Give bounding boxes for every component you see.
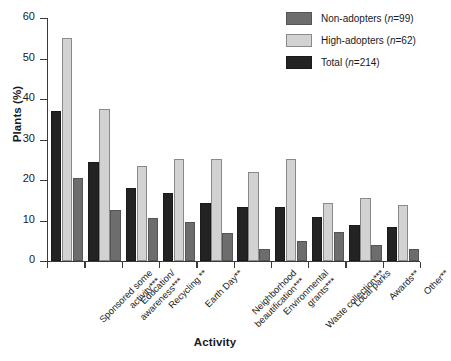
x-axis-tick xyxy=(234,262,235,268)
bar-non xyxy=(185,222,195,260)
y-axis-tick xyxy=(40,180,47,181)
bar-total xyxy=(88,162,98,260)
bar-high xyxy=(99,109,109,261)
y-axis-tick-label: 60 xyxy=(13,10,35,22)
legend-item: Non-adopters (n=99) xyxy=(286,9,422,28)
bar-high xyxy=(286,159,296,260)
x-axis-title: Activity xyxy=(140,336,290,348)
bar-non xyxy=(148,218,158,261)
bar-group xyxy=(126,18,158,261)
y-axis-tick xyxy=(40,140,47,141)
x-axis-tick xyxy=(159,262,160,268)
bar-total xyxy=(275,207,285,261)
y-axis-tick-label: 0 xyxy=(13,253,35,265)
x-axis-tick xyxy=(122,262,123,268)
y-axis-tick xyxy=(40,221,47,222)
bar-non xyxy=(73,178,83,261)
bar-high xyxy=(323,203,333,261)
bar-non xyxy=(409,249,419,260)
x-axis-category-label: Awards** xyxy=(387,268,421,302)
y-axis-tick xyxy=(40,99,47,100)
bar-high xyxy=(398,205,408,261)
legend-swatch-non xyxy=(286,12,312,25)
legend-label: Non-adopters (n=99) xyxy=(321,13,414,24)
x-axis-tick xyxy=(271,262,272,268)
bar-high xyxy=(211,159,221,260)
bar-total xyxy=(349,225,359,260)
legend-item: High-adopters (n=62) xyxy=(286,31,422,50)
x-axis-tick xyxy=(84,262,85,268)
bar-high xyxy=(360,198,370,261)
legend-swatch-high xyxy=(286,34,312,47)
bar-non xyxy=(259,249,269,260)
bar-non xyxy=(334,232,344,260)
y-axis-tick-label: 10 xyxy=(13,213,35,225)
y-axis-tick xyxy=(40,261,47,262)
y-axis-tick xyxy=(40,18,47,19)
bar-high xyxy=(248,172,258,260)
bar-total xyxy=(200,203,210,261)
bar-group xyxy=(237,18,269,261)
bar-total xyxy=(312,217,322,260)
bar-non xyxy=(222,233,232,261)
bar-total xyxy=(237,207,247,261)
y-axis-tick-label: 50 xyxy=(13,51,35,63)
x-axis-tick xyxy=(196,262,197,268)
x-axis-category-label: Other** xyxy=(422,268,451,297)
bar-non xyxy=(371,245,381,260)
x-axis-tick xyxy=(345,262,346,268)
y-axis-tick-label: 30 xyxy=(13,132,35,144)
bar-non xyxy=(297,241,307,260)
bar-group xyxy=(163,18,195,261)
bar-group xyxy=(88,18,120,261)
x-axis-tick xyxy=(308,262,309,268)
bar-high xyxy=(137,166,147,260)
y-axis-tick-label: 40 xyxy=(13,91,35,103)
y-axis-title: Plants (%) xyxy=(11,69,23,159)
bar-high xyxy=(174,159,184,260)
bar-total xyxy=(51,111,61,261)
bar-high xyxy=(62,38,72,261)
x-axis-tick xyxy=(47,262,48,268)
bar-total xyxy=(126,188,136,261)
x-axis-tick xyxy=(420,262,421,268)
legend-label: Total (n=214) xyxy=(321,57,380,68)
bar-non xyxy=(110,210,120,261)
bar-total xyxy=(387,227,397,261)
y-axis-tick xyxy=(40,59,47,60)
y-axis-tick-label: 20 xyxy=(13,172,35,184)
y-axis-line xyxy=(47,18,48,262)
legend-item: Total (n=214) xyxy=(286,53,422,72)
bar-group xyxy=(200,18,232,261)
bar-group xyxy=(51,18,83,261)
x-axis-category-label: Earth Day** xyxy=(203,268,245,310)
legend-swatch-total xyxy=(286,56,312,69)
bar-total xyxy=(163,193,173,261)
legend-label: High-adopters (n=62) xyxy=(321,35,416,46)
chart-legend: Non-adopters (n=99)High-adopters (n=62)T… xyxy=(286,9,422,75)
